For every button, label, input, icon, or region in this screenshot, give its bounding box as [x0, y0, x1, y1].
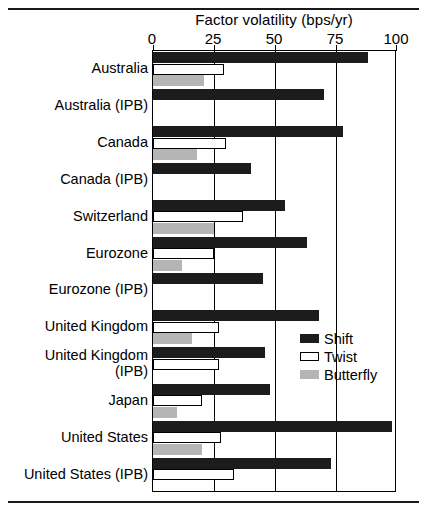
- bar-group: [153, 51, 395, 88]
- bar-shift: [153, 384, 270, 395]
- category-label: Canada (IPB): [0, 171, 148, 187]
- bar-group: [153, 88, 395, 125]
- bar-group: [153, 235, 395, 272]
- x-tick-label-25: 25: [205, 30, 222, 47]
- bar-shift: [153, 310, 319, 321]
- legend-swatch-twist-icon: [300, 352, 319, 361]
- legend-item-twist: Twist: [300, 348, 396, 365]
- bar-twist: [153, 322, 219, 333]
- bar-group: [153, 162, 395, 199]
- chart-title: Factor volatility (bps/yr): [152, 11, 396, 28]
- bar-group: [153, 125, 395, 162]
- legend-label: Twist: [324, 349, 357, 365]
- category-label: United States: [0, 429, 148, 445]
- bar-butterfly: [153, 223, 214, 234]
- bar-shift: [153, 126, 343, 137]
- x-tick-label-0: 0: [148, 30, 156, 47]
- bar-butterfly: [153, 407, 177, 418]
- legend-swatch-shift-icon: [300, 334, 319, 343]
- legend-label: Shift: [324, 331, 353, 347]
- bar-twist: [153, 359, 219, 370]
- legend-item-butterfly: Butterfly: [300, 366, 396, 383]
- bar-twist: [153, 432, 221, 443]
- x-tick-label-50: 50: [266, 30, 283, 47]
- bar-butterfly: [153, 260, 182, 271]
- category-label: Canada: [0, 134, 148, 150]
- bar-butterfly: [153, 75, 204, 86]
- x-tick-label-75: 75: [327, 30, 344, 47]
- bar-twist: [153, 138, 226, 149]
- bar-twist: [153, 248, 214, 259]
- category-label: United Kingdom(IPB): [0, 347, 148, 379]
- bar-twist: [153, 469, 234, 480]
- bar-butterfly: [153, 333, 192, 344]
- bar-twist: [153, 395, 202, 406]
- legend-label: Butterfly: [324, 367, 377, 383]
- chart-legend: ShiftTwistButterfly: [300, 330, 396, 384]
- legend-swatch-butterfly-icon: [300, 370, 319, 379]
- factor-volatility-chart: Factor volatility (bps/yr) 0255075100 Au…: [0, 0, 427, 519]
- bar-butterfly: [153, 149, 197, 160]
- bar-groups: [153, 51, 395, 491]
- bar-butterfly: [153, 444, 202, 455]
- bar-shift: [153, 273, 263, 284]
- category-label: Eurozone: [0, 245, 148, 261]
- x-tickmark-100: [396, 45, 397, 51]
- bar-shift: [153, 421, 392, 432]
- bar-shift: [153, 458, 331, 469]
- bar-twist: [153, 211, 243, 222]
- bar-shift: [153, 237, 307, 248]
- category-label: Australia (IPB): [0, 97, 148, 113]
- bar-group: [153, 198, 395, 235]
- category-label: Australia: [0, 60, 148, 76]
- category-axis-labels: AustraliaAustralia (IPB)CanadaCanada (IP…: [0, 50, 148, 492]
- plot-area: [152, 50, 396, 492]
- bar-group: [153, 272, 395, 309]
- category-label: Eurozone (IPB): [0, 281, 148, 297]
- bar-twist: [153, 64, 224, 75]
- category-label: United Kingdom: [0, 318, 148, 334]
- bar-shift: [153, 347, 265, 358]
- bar-shift: [153, 200, 285, 211]
- bar-group: [153, 419, 395, 456]
- legend-item-shift: Shift: [300, 330, 396, 347]
- bar-shift: [153, 52, 368, 63]
- bar-shift: [153, 89, 324, 100]
- category-label: Japan: [0, 392, 148, 408]
- category-label: Switzerland: [0, 208, 148, 224]
- bar-group: [153, 383, 395, 420]
- bar-shift: [153, 163, 251, 174]
- bar-group: [153, 456, 395, 493]
- category-label: United States (IPB): [0, 466, 148, 482]
